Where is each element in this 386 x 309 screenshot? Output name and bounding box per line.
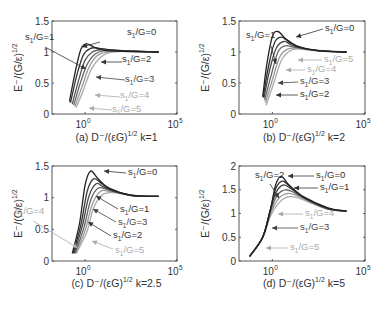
arrow-head-icon [298,58,303,63]
y-tick-label: 0.5 [35,78,49,89]
arrow-head-icon [272,226,277,231]
series-annotation: s1/G=3 [300,221,329,234]
y-tick-label: 2 [230,161,236,172]
y-tick-label: 1.5 [35,16,49,27]
y-tick-label: 0.5 [222,78,236,89]
arrow-head-icon [95,93,100,98]
subplot-d: 00.511.52100105E⁻/(G/ε)1/2(d) D⁻/(εG)1/2… [198,161,371,290]
subplot-caption: (a) D⁻/(εG)1/2k=1 [75,130,157,143]
series-annotation: s1/G=4 [305,207,334,220]
series-annotation: s1/G=3 [300,75,329,88]
y-tick-label: 1 [43,192,49,203]
y-tick-label: 1.5 [222,184,236,195]
arrow-head-icon [96,75,101,80]
arrow-head-icon [89,106,94,111]
x-tick-label: 105 [355,264,371,277]
y-tick-label: 1.5 [35,161,49,172]
x-tick-label: 100 [75,117,91,130]
series-annotation: s1/G=2 [113,229,142,242]
y-tick-label: 0 [230,109,236,120]
x-tick-label: 105 [355,117,371,130]
figure-grid: 00.511.5100105E⁻/(G/ε)1/2(a) D⁻/(εG)1/2k… [0,0,386,309]
y-tick-label: 0 [43,109,49,120]
annotation-group: s1/G=0s1/G=1s1/G=2s1/G=3s1/G=4s1/G=5 [246,22,354,101]
arrow-head-icon [276,93,281,98]
series-annotation: s1/G=3 [125,73,154,86]
x-tick-label: 105 [167,264,183,277]
series-annotation: s1/G=0 [316,169,345,182]
subplot-a: 00.511.5100105E⁻/(G/ε)1/2(a) D⁻/(εG)1/2k… [11,16,183,144]
series-annotation: s1/G=0 [128,166,157,179]
series-annotation: s1/G=0 [325,22,354,35]
x-tick-label: 100 [263,117,279,130]
series-annotation: s1/G=1 [120,203,149,216]
series-annotation: s1/G=1 [25,31,54,44]
arrow-head-icon [101,60,106,65]
y-axis-label: E⁻/(G/ε)1/2 [11,43,24,92]
series-annotation: s1/G=2 [122,53,151,66]
y-axis-label: E⁻/(G/ε)1/2 [198,189,211,238]
series-annotation: s1/G=3 [118,216,147,229]
arrow-head-icon [278,212,283,217]
subplot-caption: (b) D⁻/(εG)1/2k=2 [263,130,345,143]
annotation-group: s1/G=0s1/G=1s1/G=2s1/G=3s1/G=4s1/G=5 [255,169,349,254]
y-tick-label: 0 [230,256,236,267]
arrow-head-icon [266,246,271,251]
arrow-head-icon [278,80,283,85]
series-annotation: s1/G=2 [300,88,329,101]
y-tick-label: 1 [230,208,236,219]
arrow-head-icon [296,33,302,38]
arrow-head-icon [104,169,109,174]
arrow-head-icon [288,174,293,179]
arrow-head-icon [286,68,291,73]
series-annotation: s1/G=4 [120,89,149,102]
series-annotation: s1/G=5 [115,244,144,257]
series-annotation: s1/G=5 [290,241,319,254]
subplot-caption: (c) D⁻/(εG)1/2k=2.5 [71,276,161,289]
x-tick-label: 100 [263,264,279,277]
y-tick-label: 1.5 [222,16,236,27]
series-annotation: s1/G=5 [112,103,141,116]
series-annotation: s1/G=1 [320,181,349,194]
series-annotation: s1/G=0 [127,26,156,39]
x-tick-label: 100 [75,264,91,277]
series-annotation: s1/G=1 [246,29,275,42]
x-tick-label: 105 [167,117,183,130]
y-tick-label: 0 [43,256,49,267]
y-axis-label: E⁻/(G/ε)1/2 [198,43,211,92]
y-tick-label: 1 [230,47,236,58]
subplot-c: 00.511.5100105E⁻/(G/ε)1/2(c) D⁻/(εG)1/2k… [11,161,183,290]
series-annotation: s1/G=4 [15,205,44,218]
series-annotation: s1/G=2 [255,169,284,182]
y-tick-label: 0.5 [222,232,236,243]
figure-canvas: 00.511.5100105E⁻/(G/ε)1/2(a) D⁻/(εG)1/2k… [0,0,386,309]
subplot-b: 00.511.5100105E⁻/(G/ε)1/2(b) D⁻/(εG)1/2k… [198,16,371,144]
subplot-caption: (d) D⁻/(εG)1/2k=5 [263,276,345,289]
series-annotation: s1/G=5 [324,53,353,66]
